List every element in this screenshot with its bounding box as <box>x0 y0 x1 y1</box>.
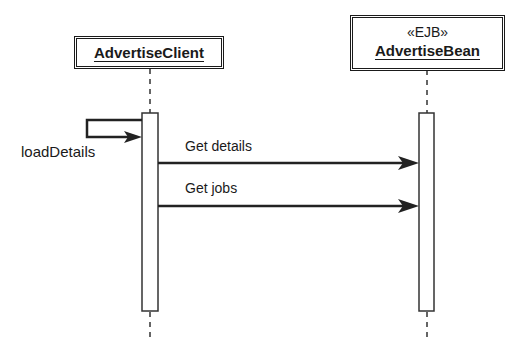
lifeline-name: AdvertiseClient <box>77 44 221 61</box>
activation-bean <box>419 113 434 311</box>
lifeline-name: AdvertiseBean <box>353 42 502 59</box>
message-label-get-details: Get details <box>185 138 252 154</box>
lifeline-advertise-client: AdvertiseClient <box>74 36 224 69</box>
message-label-load-details: loadDetails <box>21 143 95 160</box>
activation-client <box>142 113 158 311</box>
stereotype-label: «EJB» <box>353 24 502 40</box>
message-label-get-jobs: Get jobs <box>185 180 237 196</box>
lifeline-advertise-bean: «EJB» AdvertiseBean <box>350 15 505 71</box>
